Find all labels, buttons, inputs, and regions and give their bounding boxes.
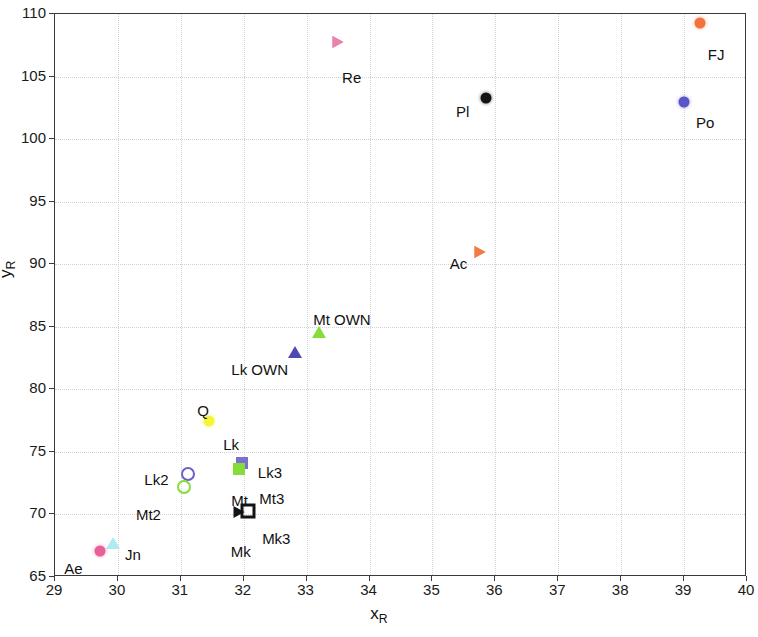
scatter-plot-figure: FJRePoPlAcMt OWNLk OWNQLkLk3MtMt3Lk2Mt2M… — [0, 0, 758, 637]
y-axis-tick-label: 105 — [2, 67, 46, 84]
y-axis-tick — [49, 388, 54, 389]
y-axis-tick — [49, 576, 54, 577]
x-axis-title-main: x — [370, 604, 379, 623]
point-label-lk-own: Lk OWN — [231, 362, 288, 377]
x-axis-tick-label: 36 — [474, 581, 514, 598]
point-label-ac: Ac — [450, 256, 468, 271]
x-axis-title: xR — [0, 604, 758, 626]
x-axis-title-sub: R — [379, 612, 388, 626]
y-axis-tick-label: 95 — [2, 192, 46, 209]
point-label-lk2: Lk2 — [144, 472, 168, 487]
y-axis-tick — [49, 451, 54, 452]
x-axis-tick-label: 40 — [726, 581, 758, 598]
point-label-mk: Mk — [231, 544, 251, 559]
x-axis-tick-label: 33 — [286, 581, 326, 598]
point-label-mk3: Mk3 — [262, 531, 290, 546]
x-axis-tick-label: 34 — [349, 581, 389, 598]
point-label-re: Re — [342, 70, 361, 85]
y-axis-tick-label: 85 — [2, 317, 46, 334]
point-label-jn: Jn — [125, 547, 141, 562]
x-axis-tick-label: 30 — [97, 581, 137, 598]
y-axis-tick — [49, 201, 54, 202]
point-label-q: Q — [197, 403, 209, 418]
point-label-mt-own: Mt OWN — [313, 312, 371, 327]
y-axis-tick — [49, 263, 54, 264]
point-label-ae: Ae — [64, 561, 82, 576]
point-label-lk: Lk — [223, 437, 239, 452]
y-axis-tick — [49, 326, 54, 327]
y-axis-tick — [49, 13, 54, 14]
y-axis-tick-label: 110 — [2, 4, 46, 21]
x-axis-tick-label: 38 — [600, 581, 640, 598]
point-label-pl: Pl — [456, 104, 469, 119]
y-axis-title: yR — [0, 261, 18, 278]
point-label-fj: FJ — [708, 47, 725, 62]
y-axis-title-sub: R — [4, 261, 18, 270]
point-label-po: Po — [696, 115, 714, 130]
point-label-mt2: Mt2 — [136, 507, 161, 522]
y-axis-tick-label: 100 — [2, 129, 46, 146]
x-axis-tick-label: 39 — [663, 581, 703, 598]
y-axis-tick-label: 65 — [2, 567, 46, 584]
point-label-lk3: Lk3 — [258, 465, 282, 480]
y-axis-title-main: y — [0, 270, 15, 279]
x-axis-tick-label: 35 — [411, 581, 451, 598]
y-axis-tick — [49, 513, 54, 514]
x-axis-tick-label: 31 — [160, 581, 200, 598]
y-axis-tick — [49, 138, 54, 139]
point-label-mt: Mt — [231, 493, 248, 508]
point-label-mt3: Mt3 — [259, 491, 284, 506]
y-axis-tick-label: 70 — [2, 504, 46, 521]
y-axis-tick-label: 75 — [2, 442, 46, 459]
plot-area: FJRePoPlAcMt OWNLk OWNQLkLk3MtMt3Lk2Mt2M… — [54, 13, 746, 576]
y-axis-tick — [49, 76, 54, 77]
y-axis-tick-label: 80 — [2, 379, 46, 396]
x-axis-tick-label: 37 — [537, 581, 577, 598]
data-point-labels: FJRePoPlAcMt OWNLk OWNQLkLk3MtMt3Lk2Mt2M… — [55, 14, 745, 575]
x-axis-tick-label: 32 — [223, 581, 263, 598]
